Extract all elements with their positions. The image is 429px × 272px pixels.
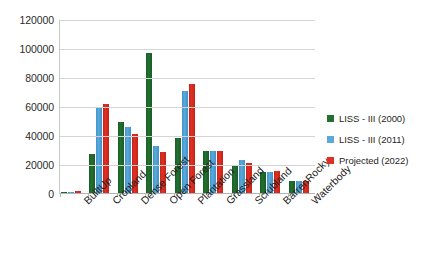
x-axis-label: Plantation bbox=[195, 198, 203, 206]
gridline bbox=[60, 20, 315, 21]
legend-color-swatch bbox=[327, 136, 334, 143]
gridline bbox=[60, 78, 315, 79]
y-tick-label: 60000 bbox=[25, 102, 54, 112]
legend-item[interactable]: Projected (2022) bbox=[327, 150, 427, 171]
x-axis-category-labels: BuiltUpCroplandDense ForestOpen ForestPl… bbox=[59, 194, 319, 272]
x-axis-label: Dense Forest bbox=[138, 198, 146, 206]
gridline bbox=[60, 107, 315, 108]
gridline bbox=[60, 49, 315, 50]
x-axis-label: Cropland bbox=[110, 198, 118, 206]
legend-color-swatch bbox=[327, 157, 334, 164]
x-axis-label: Open Forest bbox=[167, 198, 175, 206]
bar-chart: 020000400006000080000100000120000 BuiltU… bbox=[0, 0, 429, 272]
y-tick-label: 0 bbox=[48, 189, 54, 199]
y-tick-label: 80000 bbox=[25, 73, 54, 83]
y-tick-label: 40000 bbox=[25, 131, 54, 141]
x-axis-label: Grassland bbox=[223, 198, 231, 206]
y-tick-label: 100000 bbox=[20, 44, 54, 54]
legend-color-swatch bbox=[327, 115, 334, 122]
y-axis-tick-labels: 020000400006000080000100000120000 bbox=[0, 0, 58, 272]
chart-legend: LISS - III (2000)LISS - III (2011)Projec… bbox=[327, 108, 427, 171]
legend-label: Projected (2022) bbox=[339, 155, 408, 166]
x-axis-label: Waterbody bbox=[309, 198, 317, 206]
y-tick-label: 120000 bbox=[20, 15, 54, 25]
x-axis-label: BuiltUp bbox=[81, 198, 89, 206]
x-axis-label: BarrenRocky bbox=[280, 198, 288, 206]
y-tick-label: 20000 bbox=[25, 160, 54, 170]
legend-item[interactable]: LISS - III (2011) bbox=[327, 129, 427, 150]
bar bbox=[146, 53, 152, 194]
x-axis-label: Scrubland bbox=[252, 198, 260, 206]
legend-label: LISS - III (2000) bbox=[339, 113, 405, 124]
gridline bbox=[60, 136, 315, 137]
legend-item[interactable]: LISS - III (2000) bbox=[327, 108, 427, 129]
legend-label: LISS - III (2011) bbox=[339, 134, 405, 145]
plot-area bbox=[59, 20, 315, 194]
